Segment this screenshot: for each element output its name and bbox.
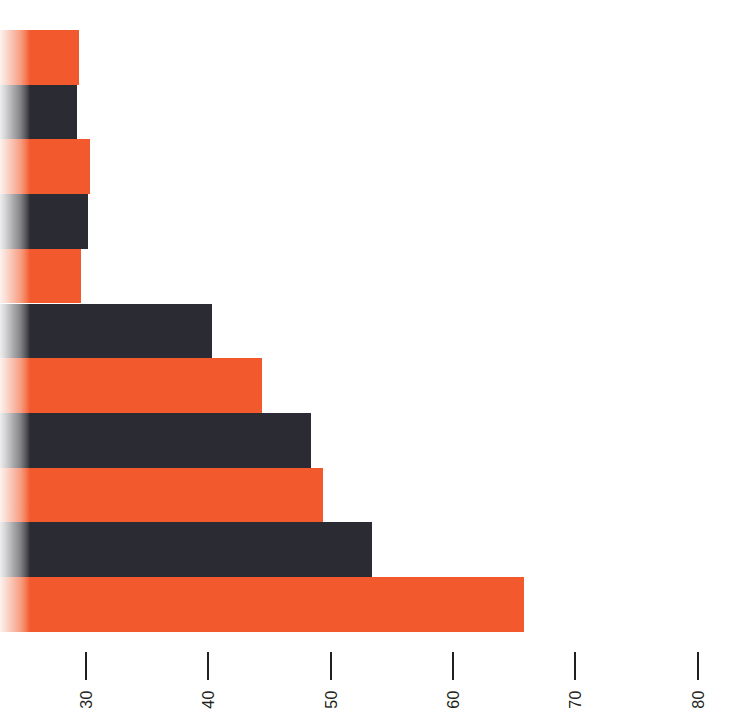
bar-row — [0, 139, 739, 194]
bar[interactable] — [0, 304, 212, 359]
bar[interactable] — [0, 139, 90, 194]
x-axis-tick-label: 50 — [323, 690, 341, 709]
bar-row — [0, 522, 739, 577]
bar[interactable] — [0, 577, 524, 632]
bar-row — [0, 577, 739, 632]
bar-row — [0, 194, 739, 249]
x-axis-tick-label: 40 — [200, 690, 218, 709]
bar-row — [0, 358, 739, 413]
bar[interactable] — [0, 194, 88, 249]
plot-area — [0, 0, 739, 640]
x-axis-tick — [697, 652, 699, 680]
x-axis-tick — [85, 652, 87, 680]
bar[interactable] — [0, 358, 262, 413]
bar-row — [0, 85, 739, 140]
bar-row — [0, 249, 739, 304]
x-axis-tick-label: 70 — [567, 690, 585, 709]
x-axis-tick-label: 80 — [690, 690, 708, 709]
bar[interactable] — [0, 468, 323, 523]
bar-row — [0, 468, 739, 523]
bar[interactable] — [0, 249, 81, 304]
bar-chart: 304050607080 — [0, 0, 739, 720]
x-axis-tick — [207, 652, 209, 680]
x-axis-tick-label: 30 — [78, 690, 96, 709]
x-axis-tick — [574, 652, 576, 680]
bar-row — [0, 304, 739, 359]
bar[interactable] — [0, 413, 311, 468]
x-axis: 304050607080 — [0, 640, 739, 720]
bar-row — [0, 413, 739, 468]
x-axis-tick — [330, 652, 332, 680]
bar-row — [0, 30, 739, 85]
bar[interactable] — [0, 522, 372, 577]
bar[interactable] — [0, 30, 79, 85]
x-axis-tick — [452, 652, 454, 680]
bar[interactable] — [0, 85, 77, 140]
x-axis-tick-label: 60 — [445, 690, 463, 709]
